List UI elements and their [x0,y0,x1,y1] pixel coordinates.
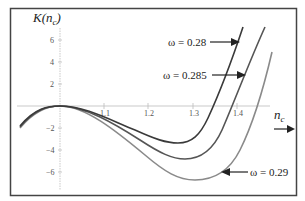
y-tick-label: −2 [46,124,55,133]
annotation-omega-0.285: ω = 0.285 [163,69,207,81]
arrow-right-icon [287,125,295,133]
curve-omega-0.285 [20,27,265,159]
arrow-right-icon [237,71,246,79]
x-axis-label: nc [274,107,285,124]
annotation-omega-0.28: ω = 0.28 [168,36,207,48]
x-tick-label: 1.2 [144,109,154,118]
y-tick-label: −4 [46,146,55,155]
chart: 1.1 1.2 1.3 1.4 6 4 2 −2 −4 −6 K(nc) ω =… [0,0,305,201]
y-tick-label: 6 [50,36,54,45]
x-tick-label: 1.4 [233,109,243,118]
annotation-omega-0.29: ω = 0.29 [250,166,289,178]
y-tick-label: 4 [50,58,54,67]
y-tick-label: 2 [50,80,54,89]
y-tick-label: −6 [46,168,55,177]
y-axis-label: K(nc) [32,10,61,27]
x-tick-label: 1.3 [189,109,199,118]
